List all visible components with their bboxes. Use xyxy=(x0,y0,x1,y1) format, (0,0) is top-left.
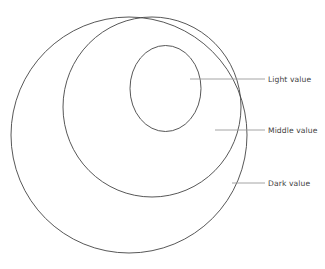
light-value-label: Light value xyxy=(268,76,311,84)
value-sphere-diagram: Light value Middle value Dark value xyxy=(0,0,325,269)
light-value-circle xyxy=(130,46,201,132)
middle-value-label: Middle value xyxy=(268,127,317,135)
diagram-canvas xyxy=(0,0,325,269)
dark-value-label: Dark value xyxy=(268,180,310,188)
dark-value-circle xyxy=(11,17,247,253)
middle-value-circle xyxy=(63,17,241,197)
